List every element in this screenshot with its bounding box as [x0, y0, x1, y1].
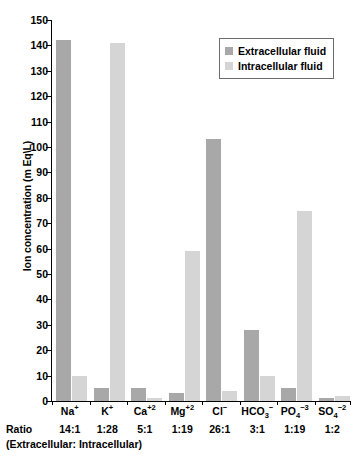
ratio-row-subtitle: (Extracellular: Intracellular): [6, 438, 142, 450]
legend-item-extracellular: Extracellular fluid: [225, 43, 326, 58]
ratio-values-row: 14:11:285:11:1926:13:11:191:2: [51, 423, 351, 439]
y-axis-tick-label: 80: [18, 193, 48, 204]
legend-label-extracellular: Extracellular fluid: [238, 45, 326, 57]
x-axis-category-label: K+: [89, 404, 127, 417]
y-axis-tick-label: 120: [18, 91, 48, 102]
x-axis-category-label: Mg+2: [164, 404, 202, 417]
chart-legend: Extracellular fluid Intracellular fluid: [219, 38, 334, 79]
legend-swatch-extracellular-icon: [225, 47, 233, 55]
x-axis-category-label: SO4−2: [314, 404, 352, 420]
bar-extracellular: [56, 40, 71, 401]
bar-intracellular: [222, 391, 237, 401]
bar-intracellular: [297, 211, 312, 402]
x-axis-category-label: HCO3−: [239, 404, 277, 420]
bar-extracellular: [94, 388, 109, 401]
ion-concentration-bar-chart: Ion concentration (m Eq\L) 0102030405060…: [0, 0, 361, 457]
ratio-value: 1:19: [276, 423, 314, 435]
y-axis-tick-label: 70: [18, 218, 48, 229]
y-axis-tick-label: 110: [18, 117, 48, 128]
bar-extracellular: [131, 388, 146, 401]
bar-extracellular: [169, 393, 184, 401]
y-axis-tick-label: 130: [18, 66, 48, 77]
category-labels-row: Na+K+Ca+2Mg+2Cl−HCO3−PO4−3SO4−2: [51, 404, 351, 422]
y-axis-tick-label: 0: [18, 396, 48, 407]
bar-extracellular: [319, 398, 334, 401]
bar-intracellular: [147, 398, 162, 401]
bar-group: [56, 20, 87, 401]
y-axis-tick-label: 20: [18, 345, 48, 356]
y-axis-line: [51, 20, 52, 402]
legend-item-intracellular: Intracellular fluid: [225, 58, 326, 73]
y-axis-tick-label: 140: [18, 40, 48, 51]
ratio-value: 1:28: [89, 423, 127, 435]
legend-label-intracellular: Intracellular fluid: [238, 60, 323, 72]
ratio-value: 1:2: [314, 423, 352, 435]
ratio-value: 5:1: [126, 423, 164, 435]
bar-intracellular: [72, 376, 87, 401]
ratio-value: 1:19: [164, 423, 202, 435]
y-axis-tick-label: 60: [18, 244, 48, 255]
x-axis-category-label: PO4−3: [276, 404, 314, 420]
bar-intracellular: [110, 43, 125, 401]
ratio-value: 3:1: [239, 423, 277, 435]
y-axis-tick-label: 30: [18, 320, 48, 331]
y-axis-tick-label: 40: [18, 294, 48, 305]
bar-group: [94, 20, 125, 401]
x-axis-category-label: Cl−: [201, 404, 239, 417]
legend-swatch-intracellular-icon: [225, 62, 233, 70]
ratio-value: 26:1: [201, 423, 239, 435]
bar-extracellular: [244, 330, 259, 401]
y-axis-tick-label: 50: [18, 269, 48, 280]
ratio-value: 14:1: [51, 423, 89, 435]
x-axis-line: [51, 401, 351, 402]
bar-extracellular: [281, 388, 296, 401]
x-axis-category-label: Ca+2: [126, 404, 164, 417]
x-axis-category-label: Na+: [51, 404, 89, 417]
bar-extracellular: [206, 139, 221, 401]
y-axis-tick-label: 100: [18, 142, 48, 153]
y-axis-tick-label: 10: [18, 371, 48, 382]
bar-intracellular: [185, 251, 200, 401]
bar-group: [131, 20, 162, 401]
y-axis-tick-label: 90: [18, 167, 48, 178]
y-axis-tick-label: 150: [18, 15, 48, 26]
bar-intracellular: [260, 376, 275, 401]
bar-group: [169, 20, 200, 401]
ratio-row-title: Ratio: [6, 423, 32, 435]
bar-intracellular: [335, 396, 350, 401]
